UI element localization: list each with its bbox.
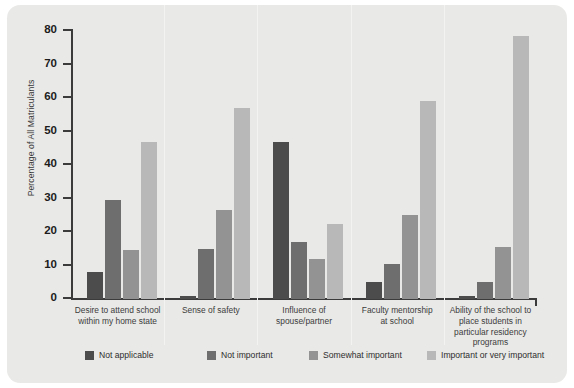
bar [420,101,436,299]
y-axis-tick-label: 10 [27,259,57,271]
bar [459,296,475,299]
legend-item[interactable]: Somewhat important [309,350,402,360]
y-axis-tick-label: 80 [27,24,57,36]
bar [141,142,157,299]
bar [123,250,139,299]
legend-swatch-icon [427,351,436,360]
x-axis-group-label: Ability of the school toplace students i… [430,305,550,348]
bar-group [444,27,537,299]
bar-group [164,27,257,299]
bar-group [71,27,164,299]
y-axis-tick-label: 60 [27,91,57,103]
legend-item[interactable]: Important or very important [427,350,544,360]
plot-area: Desire to attend schoolwithin my home st… [71,27,537,299]
bar-group [257,27,350,299]
bar [105,200,121,299]
bar [327,224,343,299]
y-axis-tick-label: 30 [27,192,57,204]
legend-swatch-icon [207,351,216,360]
legend-item[interactable]: Not important [207,350,273,360]
bar [198,249,214,299]
y-axis-tick-label: 20 [27,225,57,237]
bar-group [351,27,444,299]
x-axis-label-line: within my home state [58,316,178,327]
bar [402,215,418,299]
bar [273,142,289,299]
bar [216,210,232,299]
bar [309,259,325,299]
bar [87,272,103,299]
bar [495,247,511,299]
x-axis-label-line: place students in [430,316,550,327]
x-axis-label-line: particular residency [430,327,550,338]
x-axis-label-line: Ability of the school to [430,305,550,316]
bar [180,296,196,299]
bar [384,264,400,299]
bar [477,282,493,299]
legend-swatch-icon [85,351,94,360]
y-axis-tick-label: 70 [27,58,57,70]
legend-label: Not important [221,350,273,360]
legend-label: Important or very important [441,350,544,360]
y-axis-tick-label: 0 [27,292,57,304]
y-axis-tick-label: 40 [27,158,57,170]
bar [234,108,250,299]
y-axis-tick-label: 50 [27,125,57,137]
bar [366,282,382,299]
legend-item[interactable]: Not applicable [85,350,153,360]
legend-label: Not applicable [99,350,153,360]
legend-swatch-icon [309,351,318,360]
bar [513,36,529,299]
chart-panel: Percentage of All Matriculants 010203040… [7,5,567,383]
chart-legend: Not applicableNot importantSomewhat impo… [7,350,567,370]
x-axis-label-line: programs [430,337,550,348]
legend-label: Somewhat important [323,350,402,360]
bar [291,242,307,299]
